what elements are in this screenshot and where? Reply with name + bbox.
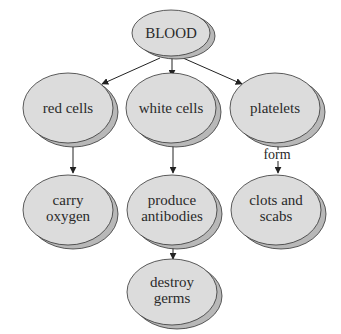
node-label: scabs xyxy=(260,208,293,224)
node-label: carry xyxy=(53,192,84,208)
node-clots-and-scabs: clots and scabs xyxy=(231,175,326,249)
node-red-cells: red cells xyxy=(23,73,118,147)
node-label: produce xyxy=(148,192,197,208)
node-label: destroy xyxy=(150,274,195,290)
node-carry-oxygen: carry oxygen xyxy=(23,175,118,249)
node-label: oxygen xyxy=(46,208,91,224)
node-label: clots and xyxy=(249,192,303,208)
node-label: antibodies xyxy=(141,208,203,224)
concept-map: form BLOOD red cells white cells platele… xyxy=(0,0,341,334)
edge-label-form: form xyxy=(263,147,290,162)
node-label: BLOOD xyxy=(145,25,197,41)
node-label: red cells xyxy=(43,100,94,116)
node-label: platelets xyxy=(250,100,300,116)
node-destroy-germs: destroy germs xyxy=(127,259,222,329)
node-label: white cells xyxy=(139,100,204,116)
node-platelets: platelets xyxy=(230,73,325,147)
node-produce-antibodies: produce antibodies xyxy=(127,175,222,249)
node-blood: BLOOD xyxy=(132,10,215,59)
node-label: germs xyxy=(154,290,191,306)
node-white-cells: white cells xyxy=(126,73,221,147)
